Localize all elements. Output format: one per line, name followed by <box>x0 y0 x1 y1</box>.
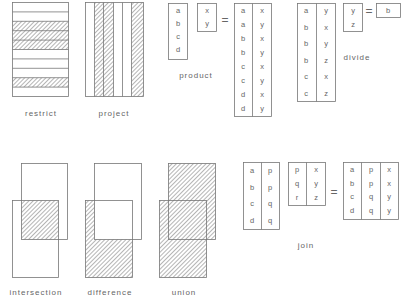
join-result-cell: a <box>350 165 354 174</box>
join-left-cell: c <box>250 199 254 208</box>
product-left-cell: a <box>176 6 180 15</box>
product-result-cell: a <box>241 6 245 15</box>
join-figure <box>244 163 399 230</box>
divide-dividend-cell: b <box>304 22 308 31</box>
product-right-cell: x <box>205 6 209 15</box>
product-figure <box>169 4 272 117</box>
product-result-cell: x <box>260 90 264 99</box>
product-right-cell: y <box>205 19 209 28</box>
join-result-cell: c <box>350 192 354 201</box>
divide-result-cell: b <box>386 6 390 15</box>
product-result-cell: a <box>241 20 245 29</box>
divide-label: divide <box>344 53 371 62</box>
product-result-cell: c <box>241 76 245 85</box>
join-left-cell: b <box>250 182 254 191</box>
divide-dividend-cell: x <box>324 22 328 31</box>
join-result-cell: x <box>387 165 391 174</box>
join-result-cell: x <box>387 178 391 187</box>
join-result-cell: b <box>350 178 354 187</box>
join-result-cell: d <box>350 205 354 214</box>
join-left-cell: p <box>268 166 272 175</box>
product-result-cell: y <box>260 104 264 113</box>
join-left-cell: q <box>268 215 272 224</box>
relational-algebra-diagram <box>0 0 410 305</box>
join-left-cell: q <box>268 199 272 208</box>
intersection-label: intersection <box>10 288 63 297</box>
product-left-cell: b <box>176 19 180 28</box>
join-left-cell: p <box>268 182 272 191</box>
product-label: product <box>179 71 213 80</box>
divide-dividend-cell: c <box>304 72 308 81</box>
divide-dividend-cell: a <box>304 6 308 15</box>
product-left-cell: c <box>176 32 180 41</box>
join-result-cell: p <box>369 178 373 187</box>
divide-dividend-cell: y <box>324 39 328 48</box>
product-result-cell: d <box>241 90 245 99</box>
join-result-cell: y <box>387 192 391 201</box>
join-right-cell: q <box>295 179 299 188</box>
product-result-cell: x <box>260 34 264 43</box>
join-right-cell: p <box>295 165 299 174</box>
divide-dividend-cell: y <box>324 6 328 15</box>
join-result-cell: q <box>369 192 373 201</box>
restrict-figure <box>13 3 69 97</box>
join-left-cell: a <box>250 166 254 175</box>
product-result-cell: c <box>241 62 245 71</box>
product-result-cell: y <box>260 76 264 85</box>
join-left-cell: d <box>250 215 254 224</box>
divide-dividend-cell: z <box>324 55 328 64</box>
project-figure <box>86 3 144 97</box>
product-result-cell: y <box>260 20 264 29</box>
product-result-cell: y <box>260 48 264 57</box>
union-figure <box>160 164 216 278</box>
restrict-label: restrict <box>25 109 57 118</box>
join-result-cell: q <box>369 205 373 214</box>
join-right-cell: r <box>296 193 299 202</box>
product-equals-sign: = <box>221 13 228 27</box>
divide-equals-sign: = <box>365 4 372 18</box>
divide-dividend-cell: z <box>324 88 328 97</box>
join-label: join <box>298 241 314 250</box>
product-left-cell: d <box>176 45 180 54</box>
difference-label: difference <box>88 288 133 297</box>
product-result-cell: x <box>260 6 264 15</box>
join-result-cell: y <box>387 205 391 214</box>
divide-dividend-cell: x <box>324 72 328 81</box>
project-label: project <box>98 109 129 118</box>
product-result-cell: x <box>260 62 264 71</box>
product-result-cell: b <box>241 34 245 43</box>
product-result-cell: b <box>241 48 245 57</box>
join-right-cell: z <box>314 193 318 202</box>
divide-divisor-cell: z <box>351 20 355 29</box>
join-equals-sign: = <box>330 185 337 199</box>
union-label: union <box>172 288 197 297</box>
intersection-figure <box>13 164 68 278</box>
difference-figure <box>86 164 142 278</box>
divide-dividend-cell: b <box>304 55 308 64</box>
product-result-cell: d <box>241 104 245 113</box>
join-right-cell: x <box>314 165 318 174</box>
divide-dividend-cell: c <box>304 88 308 97</box>
divide-dividend-cell: b <box>304 39 308 48</box>
join-result-cell: p <box>369 165 373 174</box>
divide-divisor-cell: y <box>351 6 355 15</box>
join-right-cell: y <box>314 179 318 188</box>
